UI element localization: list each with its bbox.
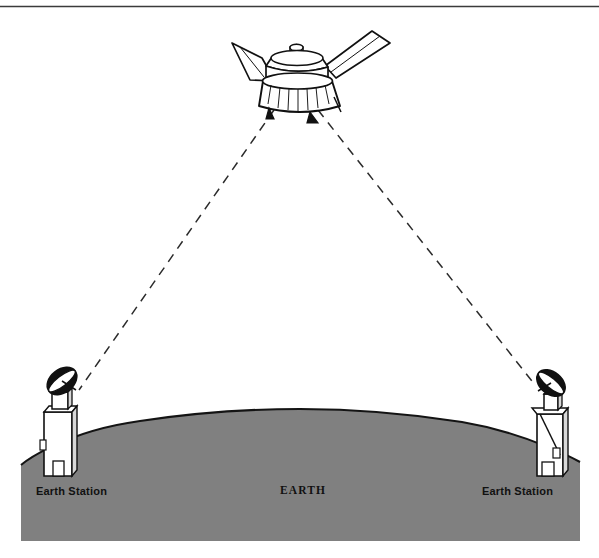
upper-drum-top-ellipse: [271, 51, 323, 66]
right-station-dish: [532, 364, 571, 401]
satellite-solar-panel-right: [325, 31, 390, 78]
downlink-right-dashed-line: [318, 110, 535, 385]
diagram-canvas: Earth Station Earth Station EARTH: [0, 0, 599, 558]
left-station-tower-side: [72, 406, 77, 476]
communications-satellite: [232, 31, 390, 123]
link-uplink-left: [79, 110, 274, 390]
satellite-main-body: [259, 73, 340, 112]
left-station-door: [53, 461, 64, 476]
antenna-nub-cap: [290, 44, 303, 50]
uplink-left-dashed-line: [79, 110, 274, 390]
left-station-dish: [42, 362, 82, 400]
left-station-side-box: [40, 440, 46, 450]
earth-body: [21, 409, 580, 541]
earth-label: EARTH: [280, 484, 326, 496]
left-station-label: Earth Station: [36, 485, 107, 497]
solar-panel-right-face: [325, 31, 390, 78]
satellite-link-diagram: Earth Station Earth Station EARTH: [0, 0, 599, 558]
right-station-side-box: [553, 448, 560, 458]
link-downlink-right: [318, 110, 535, 385]
right-station-label: Earth Station: [482, 485, 553, 497]
leg-right: [307, 112, 318, 123]
right-station-tower-side: [563, 408, 568, 476]
main-body-top-ellipse: [263, 73, 333, 89]
right-station-door: [542, 462, 554, 476]
